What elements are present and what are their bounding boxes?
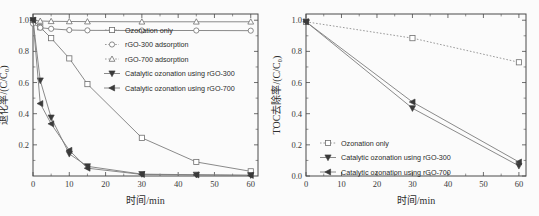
x-tick-label: 30 [408, 179, 417, 189]
marker-open-circle [67, 27, 72, 32]
legend-label-2: Catalytic ozonation using rGO-700 [341, 168, 451, 177]
marker-open-square [516, 60, 521, 65]
y-tick-label: 0.4 [291, 109, 302, 119]
chart-left-svg: 01020304050600.20.40.60.81.0时间/min退化率/(C… [0, 0, 269, 216]
x-tick-label: 40 [443, 179, 452, 189]
y-axis-title: TOC去除率/(C/C₀) [270, 56, 283, 135]
chart-right-svg: 01020304050600.00.20.40.60.81.0时间/minTOC… [270, 0, 539, 216]
y-tick-label: 1.0 [291, 15, 302, 25]
marker-open-square [49, 36, 54, 41]
legend-label-0: Ozonation only [125, 26, 173, 35]
legend-label-1: rGO-300 adsorption [125, 40, 189, 49]
chart-panel-left: 01020304050600.20.40.60.81.0时间/min退化率/(C… [0, 0, 270, 216]
x-tick-label: 0 [303, 179, 307, 189]
marker-filled-triangle-left [109, 85, 115, 91]
y-tick-label: 0.6 [18, 78, 29, 88]
x-tick-label: 20 [372, 179, 381, 189]
x-tick-label: 0 [31, 179, 35, 189]
marker-open-square [67, 56, 72, 61]
x-tick-label: 60 [514, 179, 523, 189]
marker-open-square [85, 81, 90, 86]
marker-open-square [409, 36, 414, 41]
y-tick-label: 0.4 [18, 109, 29, 119]
legend-label-0: Ozonation only [341, 139, 389, 148]
marker-open-square [325, 140, 330, 145]
x-tick-label: 60 [246, 179, 255, 189]
y-tick-label: 0.2 [18, 140, 29, 150]
marker-filled-triangle-left [48, 121, 54, 127]
x-tick-label: 50 [210, 179, 219, 189]
x-axis-title: 时间/min [126, 194, 164, 206]
x-tick-label: 20 [101, 179, 110, 189]
y-tick-label: 0.2 [291, 140, 302, 150]
x-tick-label: 10 [65, 179, 74, 189]
x-tick-label: 40 [174, 179, 183, 189]
y-tick-label: 1.0 [18, 15, 29, 25]
marker-open-circle [85, 28, 90, 33]
x-tick-label: 10 [337, 179, 346, 189]
marker-open-square [139, 135, 144, 140]
y-tick-label: 0.8 [291, 46, 302, 56]
legend-label-2: rGO-700 adsorption [125, 55, 189, 64]
x-tick-label: 50 [479, 179, 488, 189]
x-tick-label: 30 [138, 179, 147, 189]
series-line-0 [306, 22, 519, 63]
y-tick-label: 0.8 [18, 46, 29, 56]
marker-open-circle [248, 28, 253, 33]
series-line-2 [306, 22, 519, 162]
marker-open-circle [109, 42, 114, 47]
y-tick-label: 0.6 [291, 78, 302, 88]
legend-label-3: Catalytic ozonation using rGO-300 [125, 69, 235, 78]
legend-label-1: Catalytic ozonation using rGO-300 [341, 153, 451, 162]
figure-container: 01020304050600.20.40.60.81.0时间/min退化率/(C… [0, 0, 539, 216]
chart-panel-right: 01020304050600.00.20.40.60.81.0时间/minTOC… [270, 0, 539, 216]
legend-label-4: Catalytic ozonation using rGO-700 [125, 84, 235, 93]
x-axis-title: 时间/min [396, 194, 434, 206]
y-axis-title: 退化率/(C/C₀) [0, 65, 10, 124]
marker-open-circle [38, 25, 43, 30]
marker-filled-triangle-left [324, 169, 330, 175]
marker-open-square [109, 27, 114, 32]
marker-open-circle [194, 28, 199, 33]
y-tick-label: 0.0 [291, 171, 302, 181]
marker-filled-triangle-down [409, 106, 415, 112]
marker-open-circle [49, 26, 54, 31]
marker-open-square [194, 159, 199, 164]
